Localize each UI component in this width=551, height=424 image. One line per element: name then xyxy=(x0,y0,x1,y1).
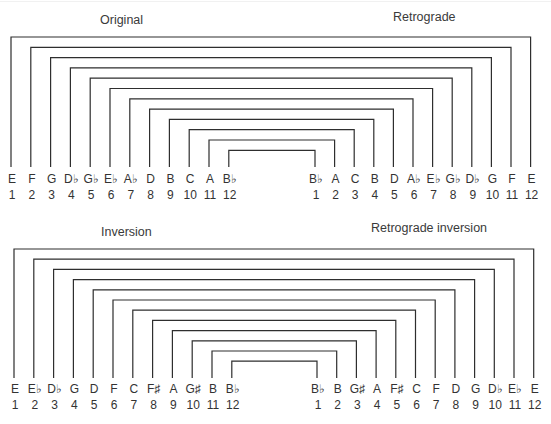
note-label: E xyxy=(531,382,539,396)
bracket-connector xyxy=(232,361,317,378)
bracket-connector xyxy=(192,341,356,378)
note-label: E xyxy=(528,172,536,186)
bracket-connector xyxy=(93,290,455,378)
bracket-connector xyxy=(169,119,373,167)
position-number: 11 xyxy=(204,188,217,202)
bracket-connector xyxy=(90,78,452,167)
bracket-diagram-canvas: E1B♭1F2A2G3C3D♭4B4G♭5D5E♭6A♭6A♭7E♭7D8G♭8… xyxy=(0,0,551,424)
note-label: F♯ xyxy=(147,382,160,396)
position-number: 6 xyxy=(413,398,420,412)
bracket-connector xyxy=(73,280,474,378)
note-label: G♯ xyxy=(186,382,201,396)
position-number: 12 xyxy=(528,398,542,412)
note-label: A♭ xyxy=(124,172,138,186)
position-number: 3 xyxy=(354,398,361,412)
note-label: G♯ xyxy=(350,382,365,396)
position-number: 11 xyxy=(207,398,220,412)
title-inversion: Inversion xyxy=(101,225,152,239)
position-number: 3 xyxy=(48,188,55,202)
position-number: 12 xyxy=(223,188,237,202)
note-label: G xyxy=(47,172,56,186)
diagram-inversion-retrograde-inversion: E1B♭1E♭2B2D♭3G♯3G4A4D5F♯5F6C6C7F7F♯8D8A9… xyxy=(11,249,542,412)
position-number: 8 xyxy=(450,188,457,202)
position-number: 2 xyxy=(332,188,339,202)
note-label: B♭ xyxy=(311,382,325,396)
diagram-original-retrograde: E1B♭1F2A2G3C3D♭4B4G♭5D5E♭6A♭6A♭7E♭7D8G♭8… xyxy=(8,37,539,202)
position-number: 6 xyxy=(111,398,118,412)
position-number: 1 xyxy=(12,398,19,412)
position-number: 9 xyxy=(469,188,476,202)
title-retrograde: Retrograde xyxy=(393,10,456,24)
note-label: G xyxy=(70,382,79,396)
note-label: A xyxy=(169,382,177,396)
position-number: 10 xyxy=(184,188,198,202)
note-label: B♭ xyxy=(223,172,237,186)
note-label: E♭ xyxy=(104,172,118,186)
note-label: C xyxy=(412,382,421,396)
bracket-connector xyxy=(153,320,396,378)
bracket-connector xyxy=(70,68,471,167)
title-original: Original xyxy=(100,13,143,27)
note-label: D xyxy=(390,172,399,186)
position-number: 6 xyxy=(411,188,418,202)
position-number: 4 xyxy=(71,398,78,412)
bracket-connector xyxy=(113,300,435,378)
note-label: B♭ xyxy=(226,382,240,396)
position-number: 8 xyxy=(147,188,154,202)
position-number: 9 xyxy=(472,398,479,412)
position-number: 2 xyxy=(28,188,35,202)
note-label: D♭ xyxy=(47,382,62,396)
position-number: 10 xyxy=(486,188,500,202)
note-label: F♯ xyxy=(390,382,403,396)
note-label: F xyxy=(110,382,117,396)
position-number: 11 xyxy=(506,188,519,202)
note-label: C xyxy=(186,172,195,186)
note-label: A♭ xyxy=(407,172,421,186)
top-edge-divider xyxy=(0,1,551,2)
note-label: D xyxy=(452,382,461,396)
bracket-connector xyxy=(110,89,433,168)
note-label: D♭ xyxy=(488,382,503,396)
position-number: 7 xyxy=(130,398,137,412)
position-number: 3 xyxy=(51,398,58,412)
position-number: 10 xyxy=(187,398,201,412)
note-label: F xyxy=(508,172,515,186)
position-number: 8 xyxy=(150,398,157,412)
position-number: 2 xyxy=(334,398,341,412)
position-number: 1 xyxy=(9,188,16,202)
tone-row-diagram-figure: Original Retrograde Inversion Retrograde… xyxy=(0,0,551,424)
position-number: 3 xyxy=(352,188,359,202)
bracket-connector xyxy=(209,140,335,167)
position-number: 7 xyxy=(430,188,437,202)
bracket-connector xyxy=(150,109,394,167)
position-number: 7 xyxy=(127,188,134,202)
bracket-connector xyxy=(14,249,534,378)
position-number: 8 xyxy=(453,398,460,412)
title-retrograde-inversion: Retrograde inversion xyxy=(371,221,487,235)
position-number: 4 xyxy=(371,188,378,202)
note-label: F xyxy=(433,382,440,396)
position-number: 5 xyxy=(88,188,95,202)
position-number: 5 xyxy=(391,188,398,202)
note-label: A xyxy=(332,172,340,186)
note-label: G♭ xyxy=(446,172,461,186)
position-number: 10 xyxy=(489,398,503,412)
bracket-connector xyxy=(172,331,376,378)
note-label: B xyxy=(334,382,342,396)
position-number: 1 xyxy=(313,188,320,202)
note-label: C xyxy=(351,172,360,186)
bracket-connector xyxy=(31,47,511,167)
position-number: 11 xyxy=(509,398,522,412)
position-number: 4 xyxy=(374,398,381,412)
note-label: F xyxy=(28,172,35,186)
note-label: E♭ xyxy=(28,382,42,396)
note-label: C xyxy=(129,382,138,396)
position-number: 6 xyxy=(108,188,115,202)
note-label: D xyxy=(146,172,155,186)
bracket-connector xyxy=(34,259,514,378)
note-label: D♭ xyxy=(465,172,480,186)
note-label: E♭ xyxy=(427,172,441,186)
note-label: D♭ xyxy=(64,172,79,186)
note-label: A xyxy=(206,172,214,186)
note-label: G xyxy=(471,382,480,396)
